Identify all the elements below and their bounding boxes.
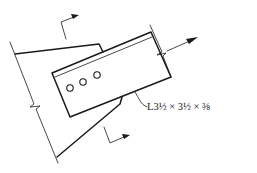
- gusset-plate: [15, 44, 122, 157]
- tension-arrow-icon: [167, 37, 198, 51]
- bolt-hole-icon: [67, 85, 73, 91]
- bolt-hole-icon: [80, 79, 86, 85]
- bolt-holes: [67, 72, 100, 91]
- member-size-label: L3½ × 3½ × ⅜: [147, 101, 210, 112]
- connection-drawing: [0, 0, 257, 173]
- bolt-hole-icon: [94, 72, 100, 78]
- support-break-line: [10, 42, 58, 163]
- section-mark-top-icon: [61, 14, 79, 39]
- label-leader-line: [135, 92, 147, 107]
- section-mark-bottom-icon: [104, 127, 130, 143]
